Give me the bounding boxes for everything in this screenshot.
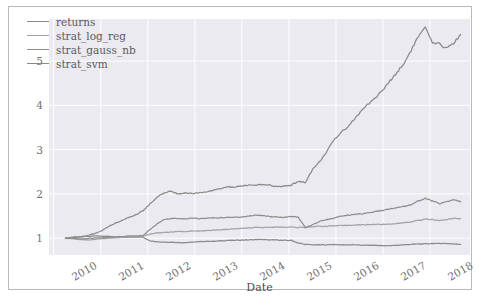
legend-swatch-strat-log-reg — [27, 35, 49, 36]
x-tick-label: 2011 — [116, 259, 145, 283]
legend-item-strat-gauss-nb: strat_gauss_nb — [27, 43, 136, 56]
y-tick-label: 1 — [15, 232, 43, 244]
x-tick-label: 2013 — [210, 259, 239, 283]
x-tick-label: 2014 — [257, 259, 286, 283]
x-tick-label: 2016 — [352, 259, 381, 283]
y-tick-label: 3 — [15, 144, 43, 156]
x-tick-label: 2018 — [446, 259, 475, 283]
y-tick-label: 4 — [15, 99, 43, 111]
legend-label-strat-gauss-nb: strat_gauss_nb — [56, 44, 136, 56]
figure-root: 12345 2010201120122013201420152016201720… — [0, 0, 482, 299]
series-line-strat_gauss_nb — [65, 198, 460, 239]
figure-frame: 12345 2010201120122013201420152016201720… — [8, 6, 472, 290]
x-tick-label: 2010 — [69, 259, 98, 283]
legend-label-strat-svm: strat_svm — [56, 58, 108, 70]
legend-item-strat-log-reg: strat_log_reg — [27, 29, 136, 42]
legend-swatch-strat-svm — [27, 63, 49, 64]
x-tick-label: 2012 — [163, 259, 192, 283]
legend-label-strat-log-reg: strat_log_reg — [56, 30, 126, 42]
x-tick-label: 2017 — [399, 259, 428, 283]
chart-legend: returns strat_log_reg strat_gauss_nb str… — [23, 13, 140, 73]
legend-item-strat-svm: strat_svm — [27, 57, 136, 70]
legend-swatch-strat-gauss-nb — [27, 49, 49, 50]
legend-label-returns: returns — [56, 16, 95, 28]
y-tick-label: 2 — [15, 188, 43, 200]
legend-swatch-returns — [27, 21, 49, 22]
x-axis-label: Date — [49, 281, 470, 294]
legend-item-returns: returns — [27, 15, 136, 28]
x-tick-label: 2015 — [304, 259, 333, 283]
